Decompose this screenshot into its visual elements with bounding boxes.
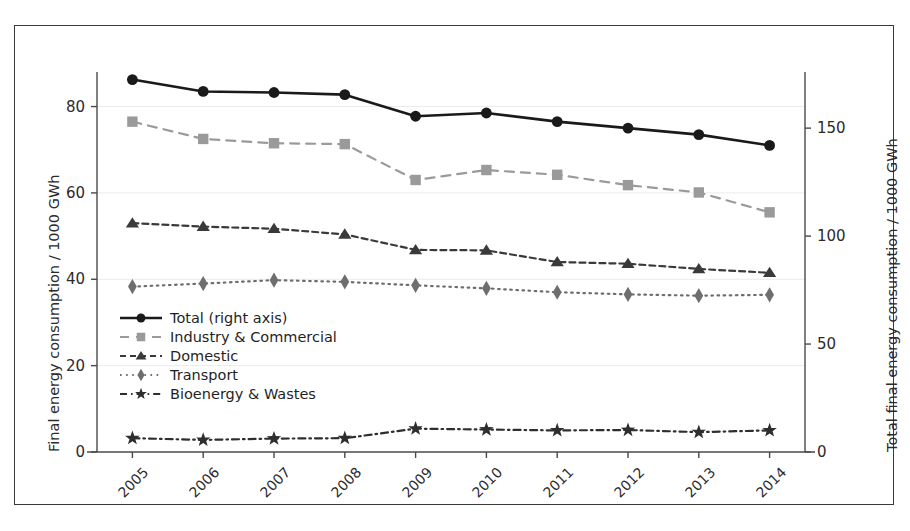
data-point-diamond [624, 287, 633, 302]
data-point-star [125, 431, 139, 445]
y-axis-right-tick-label: 100 [817, 227, 865, 245]
data-point-star [479, 422, 493, 436]
legend-label: Domestic [170, 348, 238, 364]
legend-label: Bioenergy & Wastes [170, 386, 316, 402]
legend-item[interactable]: Total (right axis) [118, 308, 337, 327]
data-point-square [410, 175, 420, 185]
data-point-circle [198, 86, 209, 97]
data-point-circle [269, 87, 280, 98]
data-point-square [198, 134, 208, 144]
y-axis-right-tick-label: 0 [817, 443, 865, 461]
y-axis-left-tick-label: 80 [45, 98, 85, 116]
series-line [132, 280, 769, 296]
legend-item[interactable]: Domestic [118, 346, 337, 365]
data-point-star [692, 425, 706, 439]
data-point-circle [137, 314, 146, 323]
data-point-diamond [411, 278, 420, 293]
data-point-diamond [765, 287, 774, 302]
data-point-circle [552, 116, 563, 127]
series-line [132, 80, 769, 146]
chart-legend: Total (right axis)Industry & CommercialD… [118, 308, 337, 403]
y-axis-left-tick-label: 20 [45, 357, 85, 375]
legend-label: Transport [170, 367, 238, 383]
data-point-diamond [340, 274, 349, 289]
legend-marker-triangle-icon [118, 346, 164, 365]
data-point-square [137, 333, 146, 342]
legend-item[interactable]: Transport [118, 365, 337, 384]
data-point-diamond [128, 279, 137, 294]
series-line [132, 223, 769, 273]
data-point-triangle [267, 223, 280, 233]
legend-marker-square-icon [118, 327, 164, 346]
data-point-circle [764, 140, 775, 151]
legend-marker-star-icon [118, 384, 164, 403]
data-point-star [550, 423, 564, 437]
data-point-star [621, 422, 635, 436]
data-point-square [340, 139, 350, 149]
chart-plot-area [0, 0, 910, 531]
legend-item[interactable]: Bioenergy & Wastes [118, 384, 337, 403]
y-axis-left-tick-label: 40 [45, 270, 85, 288]
y-axis-right-tick-label: 50 [817, 335, 865, 353]
data-point-circle [127, 74, 138, 85]
series-line [132, 429, 769, 440]
data-point-star [408, 421, 422, 435]
data-point-star [267, 431, 281, 445]
data-point-diamond [199, 276, 208, 291]
data-point-diamond [137, 369, 144, 381]
legend-item[interactable]: Industry & Commercial [118, 327, 337, 346]
data-point-diamond [694, 288, 703, 303]
legend-label: Industry & Commercial [170, 329, 337, 345]
data-point-star [762, 423, 776, 437]
data-point-diamond [553, 285, 562, 300]
y-axis-right-title: Total final energy consumption / 1000 GW… [884, 138, 900, 452]
y-axis-left-tick-label: 0 [45, 443, 85, 461]
y-axis-left-title: Final energy consumption / 1000 GWh [46, 175, 62, 452]
data-point-square [552, 170, 562, 180]
data-point-square [623, 180, 633, 190]
data-point-diamond [482, 281, 491, 296]
data-point-star [196, 432, 210, 446]
data-point-circle [481, 108, 492, 119]
data-point-triangle [338, 228, 351, 238]
legend-marker-diamond-icon [118, 365, 164, 384]
data-point-circle [623, 123, 634, 134]
data-point-star [338, 431, 352, 445]
data-point-circle [339, 89, 350, 100]
legend-marker-circle-icon [118, 308, 164, 327]
y-axis-left-tick-label: 60 [45, 184, 85, 202]
figure-container: Final energy consumption / 1000 GWh Tota… [0, 0, 910, 531]
data-point-square [694, 187, 704, 197]
data-point-square [764, 207, 774, 217]
data-point-square [127, 116, 137, 126]
series-line [132, 122, 769, 213]
y-axis-right-tick-label: 150 [817, 119, 865, 137]
data-point-circle [410, 111, 421, 122]
data-point-square [269, 138, 279, 148]
data-point-square [481, 165, 491, 175]
legend-label: Total (right axis) [170, 310, 288, 326]
data-point-circle [693, 129, 704, 140]
data-point-diamond [270, 273, 279, 288]
data-point-star [135, 388, 147, 399]
